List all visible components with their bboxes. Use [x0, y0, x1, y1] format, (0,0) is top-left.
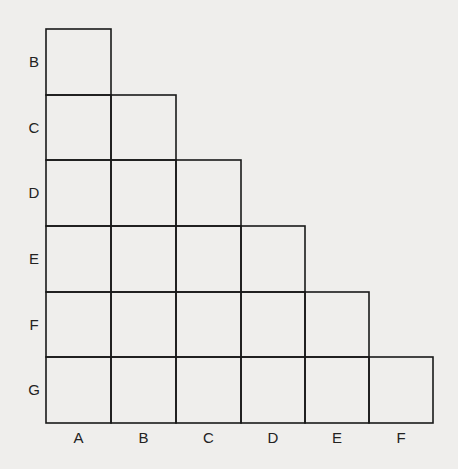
grid-cell-C-B: [111, 95, 176, 160]
grid-cell-F-C: [176, 292, 241, 357]
grid-cell-E-C: [176, 226, 241, 292]
triangular-grid: [0, 0, 458, 469]
grid-cell-G-F: [369, 357, 433, 423]
column-label: F: [391, 429, 411, 447]
row-label: D: [24, 184, 44, 202]
grid-cell-D-B: [111, 160, 176, 226]
grid-cell-G-E: [305, 357, 369, 423]
grid-cell-E-D: [241, 226, 305, 292]
grid-cell-D-A: [46, 160, 111, 226]
grid-cell-F-A: [46, 292, 111, 357]
row-label: B: [24, 53, 44, 71]
column-label: C: [199, 429, 219, 447]
column-label: A: [69, 429, 89, 447]
column-label: D: [263, 429, 283, 447]
grid-cell-D-C: [176, 160, 241, 226]
grid-cell-F-B: [111, 292, 176, 357]
row-label: F: [24, 316, 44, 334]
grid-cell-B-A: [46, 29, 111, 95]
row-label: C: [24, 119, 44, 137]
grid-cell-E-B: [111, 226, 176, 292]
grid-cell-F-D: [241, 292, 305, 357]
grid-cell-F-E: [305, 292, 369, 357]
row-label: G: [24, 381, 44, 399]
grid-cell-G-C: [176, 357, 241, 423]
grid-cell-E-A: [46, 226, 111, 292]
column-label: B: [134, 429, 154, 447]
column-label: E: [327, 429, 347, 447]
grid-cell-G-A: [46, 357, 111, 423]
row-label: E: [24, 250, 44, 268]
grid-cell-G-D: [241, 357, 305, 423]
grid-cell-C-A: [46, 95, 111, 160]
grid-cell-G-B: [111, 357, 176, 423]
